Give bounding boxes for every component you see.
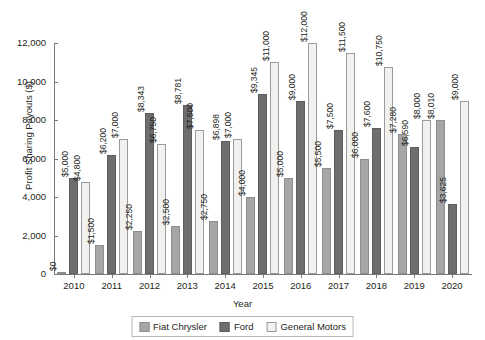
bar-general-motors-2012[interactable]: $6,750 <box>157 43 166 274</box>
bar-value-label: $6,898 <box>212 114 221 140</box>
legend-label: Fiat Chrysler <box>153 321 207 332</box>
x-tick-label: 2018 <box>358 280 396 291</box>
bar-rect: $2,250 <box>133 231 142 274</box>
legend-swatch-icon <box>139 322 149 332</box>
legend-item-ford[interactable]: Ford <box>220 321 254 332</box>
legend-label: General Motors <box>280 321 345 332</box>
legend-item-fiat-chrysler[interactable]: Fiat Chrysler <box>139 321 207 332</box>
bar-group-2017: $5,500$7,500$11,500 <box>320 43 358 274</box>
bar-ford-2019[interactable]: $6,590 <box>410 43 419 274</box>
bar-ford-2017[interactable]: $7,500 <box>334 43 343 274</box>
bar-value-label: $5,500 <box>314 141 323 167</box>
bar-value-label: $6,200 <box>99 128 108 154</box>
bar-value-label: $9,345 <box>250 67 259 93</box>
x-tick-label: 2016 <box>282 280 320 291</box>
bar-rect: $7,280 <box>398 134 407 274</box>
chart-title <box>0 0 485 2</box>
bar-fiat-chrysler-2018[interactable]: $6,000 <box>360 43 369 274</box>
x-tick-2020: 2020 <box>433 274 471 296</box>
bar-general-motors-2013[interactable]: $7,500 <box>195 43 204 274</box>
bar-fiat-chrysler-2020[interactable]: $8,010 <box>436 43 445 274</box>
bar-value-label: $7,600 <box>363 101 372 127</box>
bar-ford-2018[interactable]: $7,600 <box>372 43 381 274</box>
bar-general-motors-2011[interactable]: $7,000 <box>119 43 128 274</box>
bar-fiat-chrysler-2014[interactable]: $2,750 <box>209 43 218 274</box>
bar-rect: $5,000 <box>69 178 78 274</box>
bar-value-label: $7,000 <box>224 112 233 138</box>
bar-group-2011: $1,500$6,200$7,000 <box>93 43 131 274</box>
bar-rect: $9,000 <box>296 101 305 274</box>
bar-rect: $7,000 <box>233 139 242 274</box>
bar-rect: $5,500 <box>322 168 331 274</box>
bar-fiat-chrysler-2011[interactable]: $1,500 <box>95 43 104 274</box>
x-tick-2018: 2018 <box>358 274 396 296</box>
bar-general-motors-2018[interactable]: $10,750 <box>384 43 393 274</box>
bar-general-motors-2017[interactable]: $11,500 <box>346 43 355 274</box>
y-axis-ticks: 02,0004,0006,0008,00010,00012,000 <box>0 43 54 274</box>
bar-value-label: $7,000 <box>111 112 120 138</box>
bar-ford-2014[interactable]: $6,898 <box>221 43 230 274</box>
bar-rect: $10,750 <box>384 67 393 274</box>
x-tick-mark <box>263 274 264 278</box>
bar-fiat-chrysler-2019[interactable]: $7,280 <box>398 43 407 274</box>
y-tick-label: 2,000 <box>22 230 46 241</box>
x-tick-label: 2020 <box>433 280 471 291</box>
bar-rect: $1,500 <box>95 245 104 274</box>
x-tick-2011: 2011 <box>93 274 131 296</box>
bar-ford-2011[interactable]: $6,200 <box>107 43 116 274</box>
x-tick-2010: 2010 <box>55 274 93 296</box>
bar-group-2018: $6,000$7,600$10,750 <box>358 43 396 274</box>
bar-group-2012: $2,250$8,343$6,750 <box>131 43 169 274</box>
x-tick-label: 2017 <box>320 280 358 291</box>
bar-rect: $7,600 <box>372 128 381 274</box>
bar-value-label: $6,590 <box>401 120 410 146</box>
bar-rect: $5,000 <box>284 178 293 274</box>
bar-ford-2013[interactable]: $8,781 <box>183 43 192 274</box>
bar-group-2019: $7,280$6,590$8,000 <box>395 43 433 274</box>
bar-rect: $2,500 <box>171 226 180 274</box>
x-tick-mark <box>301 274 302 278</box>
bar-ford-2015[interactable]: $9,345 <box>258 43 267 274</box>
bar-rect: $6,898 <box>221 141 230 274</box>
x-tick-mark <box>376 274 377 278</box>
bar-general-motors-2014[interactable]: $7,000 <box>233 43 242 274</box>
bar-value-label: $0 <box>49 262 58 271</box>
y-tick-label: 0 <box>41 268 46 279</box>
bar-value-label: $10,750 <box>375 35 384 66</box>
profit-sharing-bar-chart: Profit Sharing Payouts ($) 02,0004,0006,… <box>0 0 485 340</box>
bar-groups: $0$5,000$4,800$1,500$6,200$7,000$2,250$8… <box>55 43 471 274</box>
x-tick-mark <box>112 274 113 278</box>
bar-value-label: $6,750 <box>149 117 158 143</box>
x-tick-2015: 2015 <box>244 274 282 296</box>
bar-fiat-chrysler-2017[interactable]: $5,500 <box>322 43 331 274</box>
x-tick-mark <box>225 274 226 278</box>
x-tick-label: 2013 <box>168 280 206 291</box>
bar-value-label: $2,500 <box>162 199 171 225</box>
x-tick-2013: 2013 <box>168 274 206 296</box>
bar-rect: $9,345 <box>258 94 267 274</box>
bar-value-label: $9,000 <box>288 74 297 100</box>
bar-fiat-chrysler-2012[interactable]: $2,250 <box>133 43 142 274</box>
bar-general-motors-2019[interactable]: $8,000 <box>422 43 431 274</box>
bar-rect: $6,590 <box>410 147 419 274</box>
x-tick-2014: 2014 <box>206 274 244 296</box>
bar-value-label: $11,000 <box>262 31 271 61</box>
bar-ford-2016[interactable]: $9,000 <box>296 43 305 274</box>
bar-rect: $8,000 <box>422 120 431 274</box>
x-tick-label: 2015 <box>244 280 282 291</box>
bar-general-motors-2020[interactable]: $9,000 <box>460 43 469 274</box>
x-tick-2012: 2012 <box>131 274 169 296</box>
bar-rect: $7,500 <box>334 130 343 274</box>
bar-rect: $11,500 <box>346 53 355 274</box>
x-tick-mark <box>187 274 188 278</box>
bar-rect: $2,750 <box>209 221 218 274</box>
x-tick-mark <box>74 274 75 278</box>
y-tick-label: 4,000 <box>22 191 46 202</box>
y-tick-label: 6,000 <box>22 153 46 164</box>
bar-value-label: $1,500 <box>87 218 96 244</box>
legend-item-general-motors[interactable]: General Motors <box>266 321 345 332</box>
bar-ford-2012[interactable]: $8,343 <box>145 43 154 274</box>
bar-value-label: $2,750 <box>200 194 209 220</box>
bar-value-label: $7,500 <box>326 103 335 129</box>
x-tick-mark <box>414 274 415 278</box>
